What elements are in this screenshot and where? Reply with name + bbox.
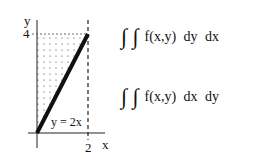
curve-label: y = 2x (51, 115, 82, 129)
integral-dy-dx: ∫ ∫ f(x,y) dy dx (121, 24, 219, 50)
double-integral-sign: ∫ ∫ (121, 24, 139, 50)
integral-dx-dy: ∫ ∫ f(x,y) dx dy (121, 84, 219, 110)
x-tick-label: 2 (85, 140, 92, 155)
integrand: f(x,y) dx dy (145, 89, 220, 105)
y-tick-label: 4 (23, 26, 30, 41)
double-integral-sign: ∫ ∫ (121, 84, 139, 110)
integrand: f(x,y) dy dx (145, 29, 220, 45)
x-axis-label: x (102, 137, 109, 152)
